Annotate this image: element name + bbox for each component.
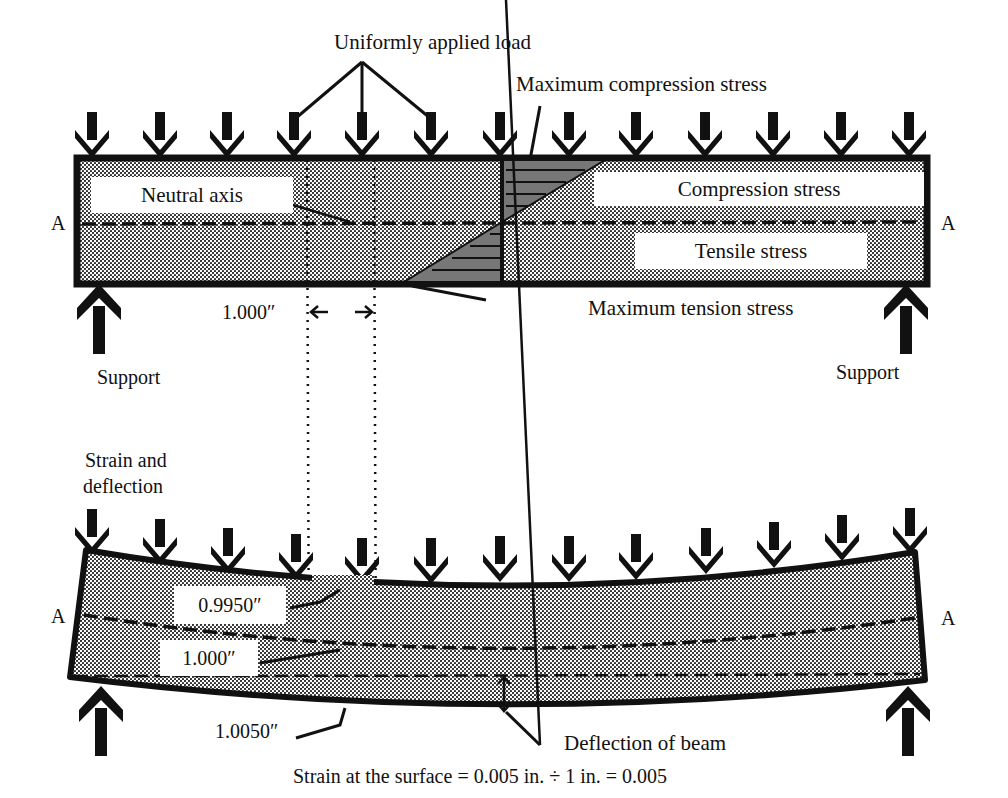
load-label: Uniformly applied load bbox=[334, 32, 531, 53]
bottom-length-label: 1.0050″ bbox=[215, 721, 278, 741]
max-compression-label: Maximum compression stress bbox=[516, 74, 767, 95]
neutral-axis-label: Neutral axis bbox=[91, 177, 293, 213]
beam-diagram bbox=[0, 0, 1008, 798]
section-a-top-left: A bbox=[51, 213, 65, 233]
strain-title-line2: deflection bbox=[83, 476, 163, 496]
max-compression-leader bbox=[530, 106, 540, 160]
gauge-arrows bbox=[311, 306, 372, 318]
neutral-length-label: 1.000″ bbox=[160, 640, 258, 676]
top-supports bbox=[77, 284, 928, 354]
section-a-top-right: A bbox=[941, 213, 955, 233]
support-right-label: Support bbox=[836, 362, 899, 382]
deflection-label: Deflection of beam bbox=[564, 733, 726, 754]
tensile-stress-label: Tensile stress bbox=[635, 233, 867, 269]
support-left-label: Support bbox=[97, 367, 160, 387]
strain-title-line1: Strain and bbox=[85, 450, 167, 470]
compression-stress-label: Compression stress bbox=[594, 172, 924, 206]
section-a-bottom-right: A bbox=[941, 608, 955, 628]
load-leader-lines bbox=[296, 62, 430, 118]
top-length-label: 0.9950″ bbox=[174, 586, 286, 624]
max-tension-label: Maximum tension stress bbox=[588, 298, 793, 319]
gauge-length-label: 1.000″ bbox=[222, 302, 275, 322]
top-load-arrows bbox=[75, 112, 926, 158]
strain-equation: Strain at the surface = 0.005 in. ÷ 1 in… bbox=[293, 766, 667, 786]
section-a-bottom-left: A bbox=[51, 606, 65, 626]
